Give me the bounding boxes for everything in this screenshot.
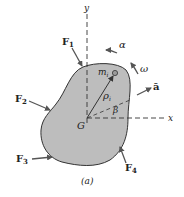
x-axis-label: x [168,113,173,123]
alpha-arrow [106,50,117,53]
center-of-mass-label: G [77,120,85,131]
figure-caption: (a) [81,176,94,186]
force-label-f1: F1 [62,36,74,49]
force-label-f4: F4 [125,162,137,175]
omega-arrow [131,63,138,74]
y-axis-label: y [83,3,90,13]
force-arrow-f2 [29,101,50,110]
rigid-body-diagram: y x G mi ρi β α ω ā F1 F2 F3 F4 (a) [0,0,184,197]
force-arrow-f4 [120,147,126,163]
force-arrow-f1 [72,48,82,66]
particle-dot [112,70,117,75]
omega-label: ω [140,63,148,74]
force-label-f2: F2 [15,93,27,106]
force-arrow-f3 [32,157,52,159]
beta-label: β [112,105,118,115]
position-vector-label-sub: i [109,95,111,102]
particle-label-main: m [98,67,107,77]
acceleration-arrow [137,88,151,95]
particle-label-sub: i [107,71,109,78]
force-label-f3: F3 [16,153,28,166]
acceleration-label: ā [153,81,160,92]
alpha-label: α [119,39,126,50]
